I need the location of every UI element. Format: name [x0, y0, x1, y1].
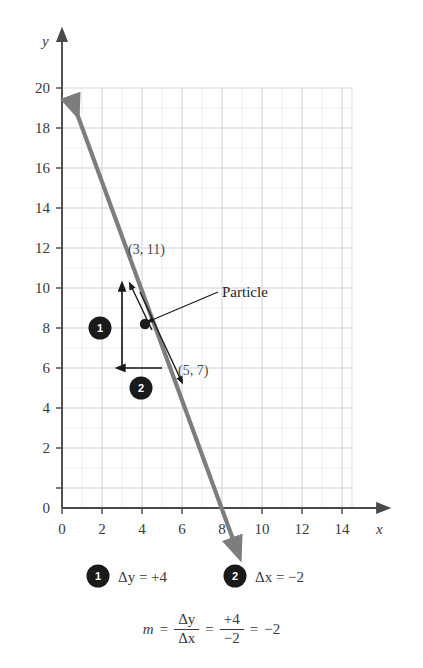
y-tick-label-0: 0	[43, 500, 51, 516]
formula-equals-2: =	[205, 622, 213, 637]
formula-result: −2	[264, 622, 280, 637]
formula-denominator-symbolic: Δx	[174, 630, 199, 647]
coordinate-plot: 0 2 4 6 8 10 12 14 16 18 20 0 2 4 6 8 10…	[0, 0, 423, 668]
y-tick-label-14: 14	[35, 200, 51, 216]
formula-equals-1: =	[160, 622, 168, 637]
formula-m: m	[143, 622, 154, 637]
point-lower-leader	[140, 292, 180, 378]
slope-formula: m = Δy Δx = +4 −2 = −2	[0, 612, 423, 647]
badge-two-plot-number: 2	[138, 382, 144, 394]
x-tick-label-6: 6	[178, 521, 186, 537]
formula-fraction-symbolic: Δy Δx	[174, 612, 199, 647]
formula-equals-3: =	[250, 622, 258, 637]
legend-item-one: 1 Δy = +4	[87, 565, 168, 588]
formula-denominator-numeric: −2	[220, 630, 244, 647]
x-tick-label-14: 14	[335, 521, 351, 537]
formula-fraction-numeric: +4 −2	[220, 612, 244, 647]
x-axis-label: x	[375, 521, 383, 537]
x-tick-label-2: 2	[98, 521, 106, 537]
x-tick-label-12: 12	[295, 521, 310, 537]
badge-two-plot: 2	[130, 377, 153, 400]
x-tick-label-8: 8	[218, 521, 226, 537]
badge-one-plot-number: 1	[97, 322, 103, 334]
formula-numerator-numeric: +4	[220, 612, 244, 629]
legend-label-two: Δx = −2	[255, 569, 304, 585]
particle-dot	[140, 319, 150, 329]
badge-one-plot: 1	[89, 317, 112, 340]
formula-numerator-symbolic: Δy	[174, 612, 199, 629]
legend-item-two: 2 Δx = −2	[224, 565, 305, 588]
y-tick-label-6: 6	[43, 360, 51, 376]
y-tick-label-20: 20	[35, 80, 50, 96]
y-tick-label-4: 4	[43, 400, 51, 416]
y-tick-label-8: 8	[43, 320, 51, 336]
particle-label: Particle	[222, 284, 268, 300]
y-tick-label-18: 18	[35, 120, 50, 136]
y-axis-label: y	[40, 33, 49, 49]
x-tick-label-4: 4	[138, 521, 146, 537]
legend-badge-one-number: 1	[95, 570, 101, 582]
y-tick-label-12: 12	[35, 240, 50, 256]
point-lower-label: (5, 7)	[178, 363, 209, 379]
legend-label-one: Δy = +4	[118, 569, 168, 585]
grid-minor	[62, 88, 352, 508]
y-tick-label-10: 10	[35, 280, 50, 296]
x-tick-label-0: 0	[58, 521, 66, 537]
legend-badge-two-number: 2	[232, 570, 238, 582]
x-tick-label-10: 10	[255, 521, 270, 537]
point-upper-label: (3, 11)	[128, 242, 165, 258]
grid-major	[62, 88, 352, 508]
slope-figure: 0 2 4 6 8 10 12 14 16 18 20 0 2 4 6 8 10…	[0, 0, 423, 668]
y-tick-label-16: 16	[35, 160, 51, 176]
y-tick-label-2: 2	[43, 440, 51, 456]
